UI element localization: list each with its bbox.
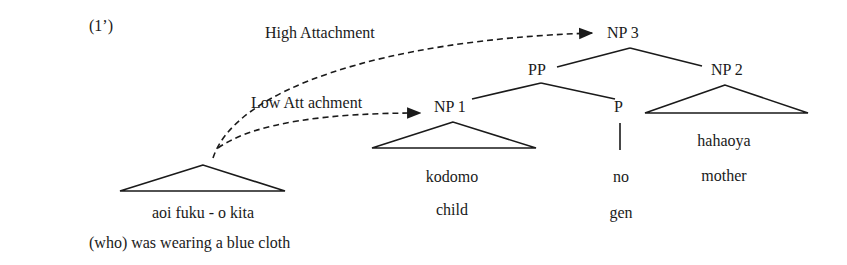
pp-np1-branch	[472, 83, 541, 99]
node-np2: NP 2	[711, 61, 743, 79]
np1-japanese: kodomo	[426, 168, 478, 186]
np3-np2-branch	[630, 48, 702, 66]
node-pp: PP	[528, 61, 546, 79]
relative-clause-gloss: (who) was wearing a blue cloth	[89, 234, 290, 252]
np2-gloss: mother	[701, 167, 746, 185]
relative-clause-japanese: aoi fuku - o kita	[152, 204, 254, 222]
node-np3: NP 3	[607, 24, 639, 42]
p-japanese: no	[613, 168, 629, 186]
np2-triangle	[645, 85, 808, 113]
low-attachment-label: Low Att achment	[251, 94, 362, 112]
np1-gloss: child	[436, 201, 468, 219]
np1-triangle	[372, 122, 536, 148]
node-np1: NP 1	[434, 98, 466, 116]
high-attachment-label: High Attachment	[265, 24, 375, 42]
np2-japanese: hahaoya	[697, 132, 750, 150]
relative-clause-triangle	[120, 165, 285, 191]
node-p: P	[614, 98, 623, 116]
pp-p-branch	[541, 83, 615, 99]
np3-pp-branch	[557, 48, 630, 67]
p-gloss: gen	[609, 204, 632, 222]
example-number: (1’)	[89, 17, 113, 35]
